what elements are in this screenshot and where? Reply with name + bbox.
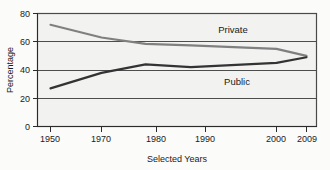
- x-tick-label-1980: 1980: [146, 134, 166, 144]
- x-tick-label-2009: 2009: [297, 134, 317, 144]
- x-tick-label-2000: 2000: [266, 134, 286, 144]
- x-tick-label-1990: 1990: [195, 134, 215, 144]
- line-chart: 80 60 40 20 0 1950 1970 1980 1990 2000 2…: [0, 0, 330, 170]
- x-axis-tick-labels: 1950 1970 1980 1990 2000 2009: [40, 134, 317, 144]
- x-axis-ticks: [51, 127, 307, 132]
- y-tick-label-60: 60: [20, 37, 30, 47]
- y-tick-label-80: 80: [20, 9, 30, 19]
- y-tick-label-40: 40: [20, 65, 30, 75]
- chart-container: 80 60 40 20 0 1950 1970 1980 1990 2000 2…: [0, 0, 330, 170]
- y-axis-ticks: [33, 14, 38, 127]
- y-tick-label-20: 20: [20, 94, 30, 104]
- series-annotation-private: Private: [218, 24, 248, 35]
- x-tick-label-1970: 1970: [91, 134, 111, 144]
- x-tick-label-1950: 1950: [40, 134, 60, 144]
- y-axis-title: Percentage: [5, 47, 15, 93]
- y-axis-tick-labels: 80 60 40 20 0: [20, 9, 30, 132]
- series-annotation-public: Public: [224, 76, 250, 87]
- x-axis-title: Selected Years: [147, 154, 208, 164]
- y-tick-label-0: 0: [25, 122, 30, 132]
